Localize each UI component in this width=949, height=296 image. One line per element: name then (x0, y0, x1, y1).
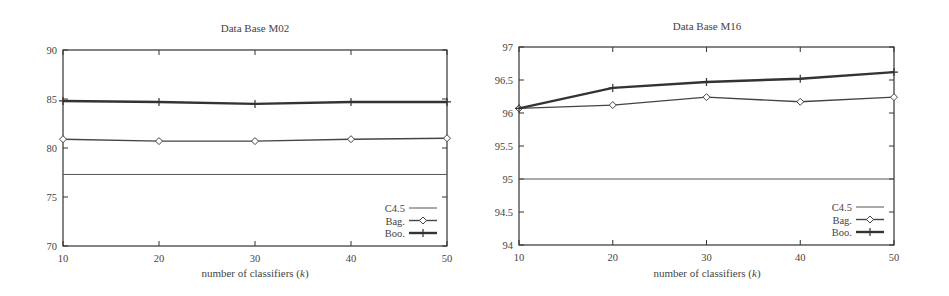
y-tick-label: 96.5 (495, 75, 513, 86)
y-tick-label: 97 (503, 42, 514, 53)
x-tick-label: 40 (346, 253, 357, 264)
y-tick-label: 95 (503, 174, 514, 185)
y-tick-label: 95.5 (495, 141, 513, 152)
y-tick-label: 90 (47, 45, 58, 56)
x-tick-label: 20 (154, 253, 165, 264)
x-tick-label: 20 (608, 252, 619, 263)
y-tick-label: 70 (47, 241, 58, 252)
legend-label: C4.5 (385, 203, 405, 214)
x-axis-label: number of classifiers (k) (201, 267, 309, 280)
y-tick-label: 94.5 (495, 207, 513, 218)
y-tick-label: 75 (47, 192, 58, 203)
x-tick-label: 30 (701, 252, 712, 263)
legend-label: C4.5 (832, 202, 852, 213)
legend-label: Boo. (832, 227, 852, 238)
plot-area: 70758085901020304050C4.5Bag.Boo. (47, 45, 453, 264)
series-boo (59, 97, 451, 108)
x-axis-label: number of classifiers (k) (653, 267, 761, 280)
chart-m16-svg: Data Base M16 9494.59595.59696.597102030… (475, 0, 949, 296)
legend: C4.5Bag.Boo. (385, 203, 437, 239)
y-tick-label: 94 (503, 240, 514, 251)
series-boo (515, 68, 898, 112)
plot-area: 9494.59595.59696.5971020304050C4.5Bag.Bo… (495, 42, 900, 263)
legend-label: Boo. (385, 228, 405, 239)
legend-label: Bag. (385, 216, 405, 227)
y-tick-label: 85 (47, 94, 58, 105)
chart-m02-svg: Data Base M02 70758085901020304050C4.5Ba… (0, 0, 475, 296)
x-tick-label: 40 (795, 252, 806, 263)
x-tick-label: 10 (514, 252, 525, 263)
legend: C4.5Bag.Boo. (832, 202, 884, 238)
x-tick-label: 10 (58, 253, 69, 264)
chart-title: Data Base M16 (673, 20, 742, 32)
series-bag (60, 135, 451, 145)
x-tick-label: 30 (250, 253, 261, 264)
x-tick-label: 50 (889, 252, 900, 263)
y-tick-label: 96 (503, 108, 514, 119)
legend-label: Bag. (832, 215, 852, 226)
chart-m02: Data Base M02 70758085901020304050C4.5Ba… (0, 0, 475, 296)
chart-m16: Data Base M16 9494.59595.59696.597102030… (475, 0, 949, 296)
x-tick-label: 50 (442, 253, 453, 264)
y-tick-label: 80 (47, 143, 58, 154)
chart-title: Data Base M02 (221, 22, 289, 34)
